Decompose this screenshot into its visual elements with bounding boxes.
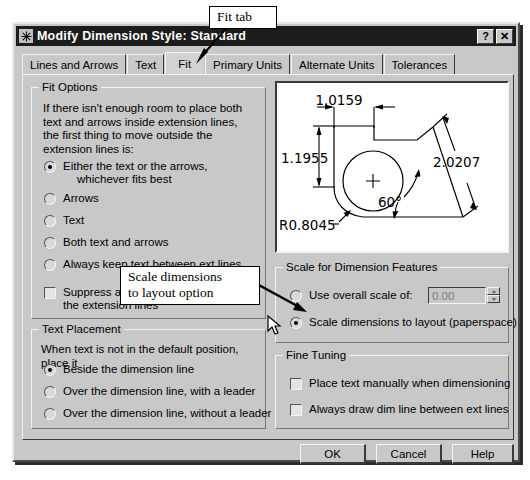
titlebar-buttons: ? ✕ xyxy=(477,29,513,44)
fine-tuning-group: Fine Tuning Place text manually when dim… xyxy=(275,355,509,429)
radio-use-overall-scale-label: Use overall scale of: xyxy=(309,289,413,302)
radio-over-with-leader-label: Over the dimension line, with a leader xyxy=(63,385,255,398)
radio-over-dimension-line-with-leader[interactable]: Over the dimension line, with a leader xyxy=(44,385,255,398)
checkbox-place-text-manually[interactable]: Place text manually when dimensioning xyxy=(290,377,510,390)
dimension-style-icon xyxy=(19,29,33,43)
close-icon[interactable]: ✕ xyxy=(496,29,513,44)
radio-over-with-leader-indicator[interactable] xyxy=(44,386,56,398)
radio-arrows-label: Arrows xyxy=(63,192,99,205)
tab-alternate-units[interactable]: Alternate Units xyxy=(291,54,382,74)
radio-scale-dimensions-to-layout[interactable]: Scale dimensions to layout (paperspace) xyxy=(290,316,517,329)
spin-down-icon[interactable] xyxy=(487,295,500,303)
checkbox-place-text-manually-indicator[interactable] xyxy=(290,378,302,390)
radio-beside-dimension-line-label: Beside the dimension line xyxy=(63,363,194,376)
radio-either-text-or-arrows-label-line2: whichever fits best xyxy=(77,173,207,186)
radio-either-text-or-arrows[interactable]: Either the text or the arrows, whichever… xyxy=(44,160,207,186)
screenshot-root: Modify Dimension Style: Standard ? ✕ Lin… xyxy=(0,0,530,480)
dialog-button-row: OK Cancel Help xyxy=(22,444,514,466)
radio-either-text-or-arrows-indicator[interactable] xyxy=(44,161,56,173)
radio-both-text-and-arrows[interactable]: Both text and arrows xyxy=(44,236,168,249)
fit-tab-panel: Fit Options If there isn't enough room t… xyxy=(22,74,514,440)
radio-use-overall-scale-indicator[interactable] xyxy=(290,290,302,302)
svg-text:1.1955: 1.1955 xyxy=(281,150,328,166)
ok-button[interactable]: OK xyxy=(300,444,366,464)
modify-dimension-style-dialog: Modify Dimension Style: Standard ? ✕ Lin… xyxy=(12,22,520,462)
svg-text:R0.8045: R0.8045 xyxy=(279,217,336,233)
svg-text:2.0207: 2.0207 xyxy=(433,154,480,170)
tab-strip: Lines and Arrows Text Fit Primary Units … xyxy=(22,52,514,74)
checkbox-always-draw-dim-line-indicator[interactable] xyxy=(290,404,302,416)
radio-beside-the-dimension-line[interactable]: Beside the dimension line xyxy=(44,363,194,376)
help-titlebar-button[interactable]: ? xyxy=(477,29,494,44)
radio-over-dimension-line-without-leader[interactable]: Over the dimension line, without a leade… xyxy=(44,407,271,420)
callout-scale-dimensions: Scale dimensions to layout option xyxy=(120,266,260,305)
cancel-button[interactable]: Cancel xyxy=(376,444,442,464)
overall-scale-value[interactable]: 0.00 xyxy=(428,287,486,304)
tab-primary-units[interactable]: Primary Units xyxy=(205,54,290,74)
fine-tuning-title: Fine Tuning xyxy=(283,349,349,361)
radio-text-label: Text xyxy=(63,214,84,227)
tab-tolerances[interactable]: Tolerances xyxy=(384,54,456,74)
radio-both-text-and-arrows-label: Both text and arrows xyxy=(63,236,168,249)
svg-text:60°: 60° xyxy=(378,194,402,210)
radio-either-text-or-arrows-label: Either the text or the arrows, xyxy=(63,160,207,173)
tab-text[interactable]: Text xyxy=(127,54,164,74)
dialog-titlebar[interactable]: Modify Dimension Style: Standard ? ✕ xyxy=(16,26,516,46)
overall-scale-spinner[interactable]: 0.00 xyxy=(428,287,500,304)
radio-over-without-leader-label: Over the dimension line, without a leade… xyxy=(63,407,271,420)
dialog-title: Modify Dimension Style: Standard xyxy=(37,29,246,43)
text-placement-group: Text Placement When text is not in the d… xyxy=(31,329,266,429)
callout-fit-tab: Fit tab xyxy=(209,6,277,29)
tab-lines-and-arrows[interactable]: Lines and Arrows xyxy=(22,54,126,74)
dimension-preview: 1.0159 1.1955 R0.8045 xyxy=(275,81,509,253)
scale-features-title: Scale for Dimension Features xyxy=(283,261,440,273)
radio-use-overall-scale[interactable]: Use overall scale of: xyxy=(290,289,413,302)
checkbox-always-draw-dim-line-label: Always draw dim line between ext lines xyxy=(309,403,508,416)
radio-arrows[interactable]: Arrows xyxy=(44,192,99,205)
help-button[interactable]: Help xyxy=(452,444,514,464)
radio-beside-dimension-line-indicator[interactable] xyxy=(44,364,56,376)
radio-both-text-and-arrows-indicator[interactable] xyxy=(44,237,56,249)
fit-options-title: Fit Options xyxy=(39,81,101,93)
spin-up-icon[interactable] xyxy=(487,287,500,295)
radio-text-indicator[interactable] xyxy=(44,215,56,227)
radio-always-keep-text-indicator[interactable] xyxy=(44,259,56,271)
checkbox-place-text-manually-label: Place text manually when dimensioning xyxy=(309,377,510,390)
radio-arrows-indicator[interactable] xyxy=(44,193,56,205)
tab-fit[interactable]: Fit xyxy=(165,52,204,74)
radio-scale-dimensions-to-layout-indicator[interactable] xyxy=(290,317,302,329)
svg-text:1.0159: 1.0159 xyxy=(315,92,362,108)
radio-scale-dimensions-to-layout-label: Scale dimensions to layout (paperspace) xyxy=(309,316,517,329)
radio-text[interactable]: Text xyxy=(44,214,84,227)
checkbox-suppress-arrows-indicator[interactable] xyxy=(44,287,56,299)
fit-options-description: If there isn't enough room to place both… xyxy=(43,102,255,156)
spinner-buttons xyxy=(487,287,500,304)
text-placement-title: Text Placement xyxy=(39,323,124,335)
scale-for-dimension-features-group: Scale for Dimension Features Use overall… xyxy=(275,267,509,343)
radio-over-without-leader-indicator[interactable] xyxy=(44,408,56,420)
checkbox-always-draw-dim-line[interactable]: Always draw dim line between ext lines xyxy=(290,403,508,416)
